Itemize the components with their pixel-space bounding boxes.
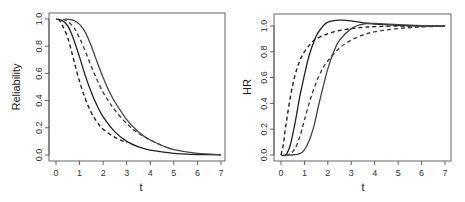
y-axis: 0.00.20.40.60.81.0 [259, 20, 274, 162]
y-tick-label: 1.0 [34, 13, 44, 26]
chart-canvas: 0.00.20.40.60.81.0 01234567 Reliability … [0, 0, 465, 202]
reliability-plot: 0.00.20.40.60.81.0 01234567 Reliability … [10, 13, 225, 193]
plot-frame [274, 14, 451, 161]
x-tick-label: 3 [349, 168, 354, 178]
y-tick-label: 0.6 [34, 67, 44, 80]
series-line-solid-2 [283, 23, 445, 155]
y-tick-label: 0.2 [259, 123, 269, 136]
series-line-solid-1 [281, 20, 445, 156]
y-tick-label: 0.4 [259, 97, 269, 110]
y-tick-label: 0.0 [259, 149, 269, 162]
x-tick-label: 7 [218, 168, 223, 178]
x-axis-title: t [361, 181, 364, 193]
x-axis: 01234567 [53, 161, 223, 178]
y-tick-label: 0.8 [259, 46, 269, 59]
x-tick-label: 7 [442, 168, 447, 178]
x-tick-label: 0 [53, 168, 58, 178]
y-axis-title: HR [241, 79, 253, 95]
y-tick-label: 0.6 [259, 71, 269, 84]
x-tick-label: 3 [124, 168, 129, 178]
series-line-dashed-1 [281, 26, 445, 155]
y-tick-label: 0.8 [34, 40, 44, 53]
y-axis: 0.00.20.40.60.81.0 [34, 13, 49, 162]
series-line-dashed-1 [58, 19, 126, 143]
series-lines [281, 20, 445, 156]
x-tick-label: 4 [148, 168, 153, 178]
x-tick-label: 0 [278, 168, 283, 178]
x-axis: 01234567 [278, 161, 447, 178]
x-tick-label: 5 [171, 168, 176, 178]
plot-frame [49, 13, 225, 161]
y-tick-label: 0.2 [34, 122, 44, 135]
x-tick-label: 2 [325, 168, 330, 178]
y-tick-label: 0.0 [34, 149, 44, 162]
x-tick-label: 1 [77, 168, 82, 178]
x-tick-label: 5 [396, 168, 401, 178]
hr-plot: 0.00.20.40.60.81.0 01234567 HR t [241, 14, 451, 193]
x-tick-label: 6 [419, 168, 424, 178]
x-tick-label: 4 [372, 168, 377, 178]
y-axis-title: Reliability [10, 63, 22, 111]
series-line-dashed-2 [63, 19, 162, 146]
y-tick-label: 0.4 [34, 94, 44, 107]
y-tick-label: 1.0 [259, 20, 269, 33]
series-lines [56, 19, 221, 155]
x-tick-label: 6 [195, 168, 200, 178]
x-tick-label: 1 [302, 168, 307, 178]
x-tick-label: 2 [101, 168, 106, 178]
x-axis-title: t [139, 181, 142, 193]
